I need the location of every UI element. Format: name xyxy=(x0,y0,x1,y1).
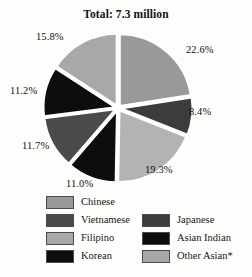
legend-label-chinese: Chinese xyxy=(81,197,115,208)
legend-swatch-chinese xyxy=(46,196,74,209)
legend-row: Chinese xyxy=(46,194,246,211)
pie-plot-area xyxy=(0,24,252,192)
legend-item-vietnamese[interactable]: Vietnamese xyxy=(46,214,142,227)
legend-swatch-asian-indian xyxy=(142,232,170,245)
legend-label-korean: Korean xyxy=(81,251,112,262)
legend-swatch-vietnamese xyxy=(46,214,74,227)
chart-title: Total: 7.3 million xyxy=(0,8,252,20)
slice-label-other-asian: 19.3% xyxy=(145,164,173,175)
legend-row: KoreanOther Asian* xyxy=(46,248,246,265)
legend-item-asian-indian[interactable]: Asian Indian xyxy=(142,232,238,245)
legend-row: FilipinoAsian Indian xyxy=(46,230,246,247)
legend-item-other-asian[interactable]: Other Asian* xyxy=(142,250,238,263)
slice-label-japanese: 8.4% xyxy=(189,106,211,117)
legend-swatch-filipino xyxy=(46,232,74,245)
chart-legend: ChineseVietnameseJapaneseFilipinoAsian I… xyxy=(46,194,246,266)
slice-label-chinese: 22.6% xyxy=(186,44,214,55)
pie-chart-figure: Total: 7.3 million 22.6% 8.4% 19.3% 11.0… xyxy=(0,0,252,277)
pie-svg xyxy=(0,24,252,192)
cropped-caption-text xyxy=(4,269,250,277)
legend-label-vietnamese: Vietnamese xyxy=(81,215,130,226)
legend-item-japanese[interactable]: Japanese xyxy=(142,214,238,227)
slice-label-filipino: 15.8% xyxy=(36,31,64,42)
pie-slice-group xyxy=(43,34,192,183)
legend-item-korean[interactable]: Korean xyxy=(46,250,142,263)
legend-label-asian-indian: Asian Indian xyxy=(177,233,231,244)
legend-swatch-other-asian xyxy=(142,250,170,263)
legend-swatch-korean xyxy=(46,250,74,263)
slice-label-korean: 11.0% xyxy=(66,178,93,189)
legend-row: VietnameseJapanese xyxy=(46,212,246,229)
slice-label-vietnamese: 11.7% xyxy=(22,140,49,151)
pie-slice-chinese[interactable] xyxy=(120,34,191,106)
legend-label-other-asian: Other Asian* xyxy=(177,251,233,262)
legend-item-chinese[interactable]: Chinese xyxy=(46,196,142,209)
legend-label-filipino: Filipino xyxy=(81,233,114,244)
legend-swatch-japanese xyxy=(142,214,170,227)
legend-label-japanese: Japanese xyxy=(177,215,214,226)
legend-item-filipino[interactable]: Filipino xyxy=(46,232,142,245)
slice-label-asian-indian: 11.2% xyxy=(10,85,37,96)
